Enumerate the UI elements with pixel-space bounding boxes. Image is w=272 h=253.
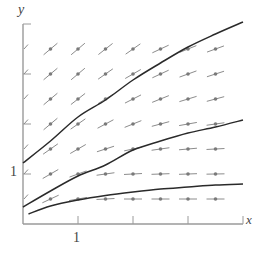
slope-point — [159, 172, 163, 176]
edge-slope-mark — [24, 70, 28, 74]
y-tick-label-1: 1 — [10, 164, 17, 180]
slope-point — [49, 97, 53, 101]
slope-point — [104, 72, 108, 76]
slope-point — [214, 122, 218, 126]
slope-point — [104, 47, 108, 51]
slope-point — [76, 122, 80, 126]
slope-point — [76, 47, 80, 51]
slope-point — [159, 97, 163, 101]
x-tick-label-1: 1 — [73, 230, 80, 246]
slope-point — [186, 97, 190, 101]
solution-curve-upper — [23, 22, 243, 163]
slope-point — [186, 72, 190, 76]
slope-point — [214, 172, 218, 176]
slope-point — [131, 122, 135, 126]
slope-point — [104, 172, 108, 176]
edge-slope-mark — [24, 120, 28, 124]
slope-point — [159, 147, 163, 151]
slope-point — [104, 122, 108, 126]
slope-point — [76, 97, 80, 101]
slope-point — [104, 147, 108, 151]
slope-point — [49, 72, 53, 76]
slope-point — [104, 197, 108, 201]
slope-point — [49, 147, 53, 151]
slope-field-figure — [0, 0, 272, 253]
slope-point — [186, 172, 190, 176]
slope-point — [131, 172, 135, 176]
slope-point — [131, 97, 135, 101]
slope-point — [49, 172, 53, 176]
slope-point — [49, 47, 53, 51]
edge-slope-mark — [24, 95, 28, 99]
slope-point — [214, 147, 218, 151]
solution-curve-middle — [23, 120, 243, 207]
slope-point — [76, 72, 80, 76]
slope-point — [214, 47, 218, 51]
slope-point — [49, 122, 53, 126]
slope-point — [159, 122, 163, 126]
slope-point — [214, 197, 218, 201]
slope-point — [214, 97, 218, 101]
slope-point — [49, 197, 53, 201]
edge-slope-mark — [24, 145, 28, 149]
slope-point — [76, 147, 80, 151]
edge-slope-mark — [24, 195, 28, 199]
slope-point — [186, 122, 190, 126]
y-axis-slope-marks — [24, 45, 28, 199]
x-axis-label: x — [246, 212, 252, 228]
slope-point — [186, 147, 190, 151]
edge-slope-mark — [24, 170, 28, 174]
slope-point — [159, 47, 163, 51]
slope-point — [131, 47, 135, 51]
slope-point — [159, 72, 163, 76]
slope-point — [159, 197, 163, 201]
slope-point — [214, 72, 218, 76]
edge-slope-mark — [24, 45, 28, 49]
y-axis-label: y — [18, 2, 24, 18]
slope-point — [131, 197, 135, 201]
slope-point — [186, 197, 190, 201]
slope-point — [131, 72, 135, 76]
